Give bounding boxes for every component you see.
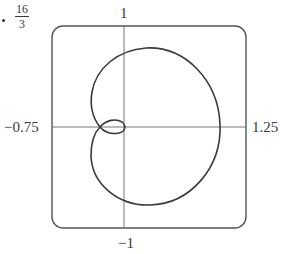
plot-area [0, 0, 289, 254]
tick-label-bottom: −1 [118, 236, 134, 251]
tick-label-top: 1 [120, 6, 128, 21]
polar-curve [91, 48, 220, 205]
tick-label-right: 1.25 [252, 120, 278, 135]
tick-label-left: −0.75 [4, 120, 39, 135]
